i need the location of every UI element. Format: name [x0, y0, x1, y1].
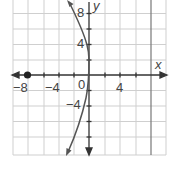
y-tick-label-4: 4: [77, 36, 84, 51]
origin-label: 0: [78, 77, 85, 92]
y-tick-label-neg4: −4: [66, 97, 81, 112]
x-axis-label: x: [154, 57, 162, 72]
x-tick-label-neg4: −4: [45, 80, 60, 95]
x-tick-label-neg8: −8: [13, 80, 28, 95]
coordinate-plane: x y 0 −8 −4 4 8 4 −4: [0, 0, 178, 172]
x-tick-label-4: 4: [116, 80, 123, 95]
y-axis-label: y: [92, 0, 101, 13]
point-neg8-0: [24, 71, 31, 78]
arrow-up-icon: [67, 0, 74, 7]
y-tick-label-8: 8: [77, 5, 84, 20]
